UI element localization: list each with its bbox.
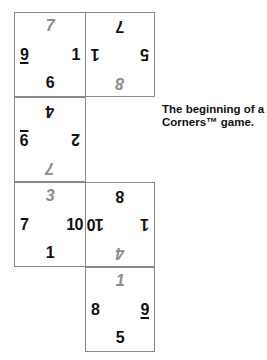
card-left-number: 7 (20, 217, 28, 233)
caption: The beginning of a Corners™ game. (162, 103, 267, 129)
card-left-number: 9 (20, 47, 28, 63)
card-bottom-number: 5 (86, 330, 154, 346)
card-top-number: 8 (86, 75, 154, 91)
card-1[interactable]: 7 9 1 6 (14, 12, 86, 97)
card-3[interactable]: 7 2 9 4 (14, 97, 86, 182)
card-left-number: 2 (72, 131, 80, 147)
card-right-number: 10 (66, 217, 83, 233)
card-bottom-number: 8 (86, 188, 154, 204)
card-top-number: 7 (15, 160, 85, 176)
caption-line-2: Corners™ game. (162, 116, 267, 129)
card-right-number: 9 (20, 131, 28, 147)
card-5[interactable]: 4 1 10 8 (85, 182, 155, 267)
card-right-number: 10 (87, 216, 104, 232)
caption-line-1: The beginning of a (162, 103, 267, 116)
card-bottom-number: 4 (15, 103, 85, 119)
card-4[interactable]: 3 7 10 1 (14, 182, 86, 267)
card-bottom-number: 7 (86, 18, 154, 34)
card-bottom-number: 6 (15, 75, 85, 91)
card-right-number: 9 (141, 302, 149, 318)
card-2[interactable]: 8 5 1 7 (85, 12, 155, 97)
card-top-number: 4 (86, 245, 154, 261)
card-bottom-number: 1 (15, 245, 85, 261)
card-top-number: 7 (15, 18, 85, 34)
card-left-number: 1 (141, 216, 149, 232)
card-right-number: 1 (72, 47, 80, 63)
card-left-number: 5 (141, 46, 149, 62)
card-right-number: 1 (91, 46, 99, 62)
card-top-number: 1 (86, 273, 154, 289)
card-6[interactable]: 1 8 9 5 (85, 267, 155, 352)
card-left-number: 8 (91, 302, 99, 318)
card-top-number: 3 (15, 188, 85, 204)
